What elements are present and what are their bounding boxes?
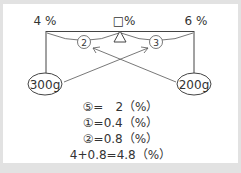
equation-3: ②=0.8（%） <box>0 131 241 147</box>
right-ratio-label: 3 <box>153 38 159 48</box>
equation-2: ①=0.4（%） <box>0 115 241 131</box>
equation-4: 4+0.8=4.8（%） <box>0 147 241 163</box>
right-percent-label: 6 % <box>185 14 208 28</box>
left-weight-label: 300g <box>30 78 61 92</box>
equation-1: ⑤= 2（%） <box>0 99 241 115</box>
arrowhead-2-icon <box>93 47 100 53</box>
left-ratio-label: 2 <box>81 38 87 48</box>
left-percent-label: 4 % <box>34 14 57 28</box>
mid-percent-label: □% <box>113 14 136 28</box>
right-weight-label: 200g <box>179 78 210 92</box>
fulcrum-triangle-icon <box>114 31 126 42</box>
